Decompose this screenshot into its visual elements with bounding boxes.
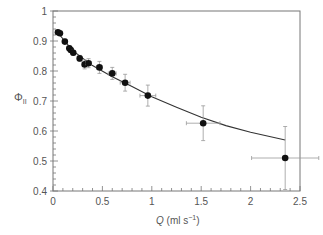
marker-dot (122, 79, 129, 86)
axes (50, 11, 300, 191)
marker-dot (282, 155, 289, 162)
data-point (70, 49, 77, 56)
marker-dot (70, 49, 77, 56)
data-point (252, 127, 319, 190)
chart-canvas: 00.511.522.50.40.50.60.70.80.91 ΦII Q (m… (0, 0, 323, 235)
data-point (140, 85, 156, 106)
y-tick-label: 0.6 (33, 126, 47, 137)
x-tick-label: 0.5 (95, 196, 109, 207)
y-tick-label: 0.5 (33, 156, 47, 167)
y-axis-label: ΦII (14, 91, 27, 105)
marker-dot (145, 92, 152, 99)
y-tick-label: 0.7 (33, 96, 47, 107)
data-point (57, 30, 64, 37)
marker-dot (96, 64, 103, 71)
y-tick-label: 1 (41, 6, 47, 17)
data-points (55, 29, 319, 190)
marker-dot (76, 55, 83, 62)
data-point (120, 74, 130, 91)
tick-labels: 00.511.522.50.40.50.60.70.80.91 (33, 6, 307, 207)
y-tick-label: 0.9 (33, 36, 47, 47)
data-point (186, 106, 220, 141)
y-tick-label: 0.8 (33, 66, 47, 77)
x-tick-label: 2 (248, 196, 254, 207)
plot-frame (53, 11, 300, 191)
marker-dot (109, 70, 116, 77)
marker-dot (62, 38, 69, 45)
marker-dot (200, 120, 207, 127)
data-point (76, 55, 83, 62)
x-tick-label: 1.5 (194, 196, 208, 207)
marker-dot (85, 60, 92, 67)
data-point (62, 38, 69, 45)
x-tick-label: 2.5 (293, 196, 307, 207)
data-point (96, 61, 103, 73)
x-tick-label: 0 (50, 196, 56, 207)
x-axis-label: Q (ml s−1) (156, 214, 200, 226)
marker-dot (57, 30, 64, 37)
y-tick-label: 0.4 (33, 186, 47, 197)
phi-vs-flow-chart: 00.511.522.50.40.50.60.70.80.91 ΦII Q (m… (0, 0, 323, 235)
fit-curve (56, 31, 285, 141)
fit-line (56, 31, 285, 141)
x-tick-label: 1 (149, 196, 155, 207)
